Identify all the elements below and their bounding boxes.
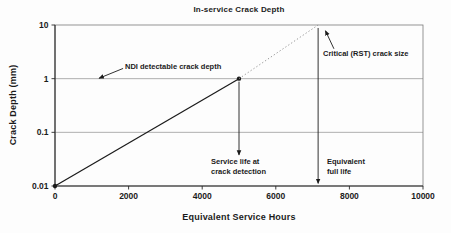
annotation-ndi-detectable-crack-depth: NDI detectable crack depth	[125, 62, 221, 72]
marker-observed-crack-growth	[53, 184, 57, 188]
annotation-critical-rst-crack-size: Critical (RST) crack size	[323, 49, 408, 59]
x-tick-label-8000: 8000	[340, 191, 359, 201]
y-tick-label-1: 1	[44, 74, 49, 84]
annotation-service-life-at-crack-detection: Service life at crack detection	[211, 157, 279, 177]
x-tick-label-10000: 10000	[411, 191, 435, 201]
marker-observed-crack-growth	[237, 76, 241, 80]
x-axis-label: Equivalent Service Hours	[55, 212, 423, 224]
arrow-ndi-detectable	[99, 68, 123, 78]
x-tick-label-4000: 4000	[193, 191, 212, 201]
y-axis-label: Crack Depth (mm)	[8, 65, 20, 146]
crack-depth-chart: 02000400060008000100000.010.1110 In-serv…	[0, 0, 451, 233]
x-tick-label-6000: 6000	[266, 191, 285, 201]
y-tick-label-0.01: 0.01	[32, 181, 49, 191]
x-tick-label-0: 0	[53, 191, 58, 201]
x-tick-label-2000: 2000	[119, 191, 138, 201]
y-tick-label-10: 10	[39, 20, 49, 30]
annotation-equivalent-full-life: Equivalent full life	[327, 157, 377, 177]
chart-plot-area: 02000400060008000100000.010.1110	[0, 0, 451, 233]
series-projected-crack-growth	[239, 25, 318, 79]
chart-title: In-service Crack Depth	[55, 5, 423, 16]
y-tick-label-0.1: 0.1	[37, 127, 49, 137]
arrow-critical-rst	[325, 31, 333, 49]
